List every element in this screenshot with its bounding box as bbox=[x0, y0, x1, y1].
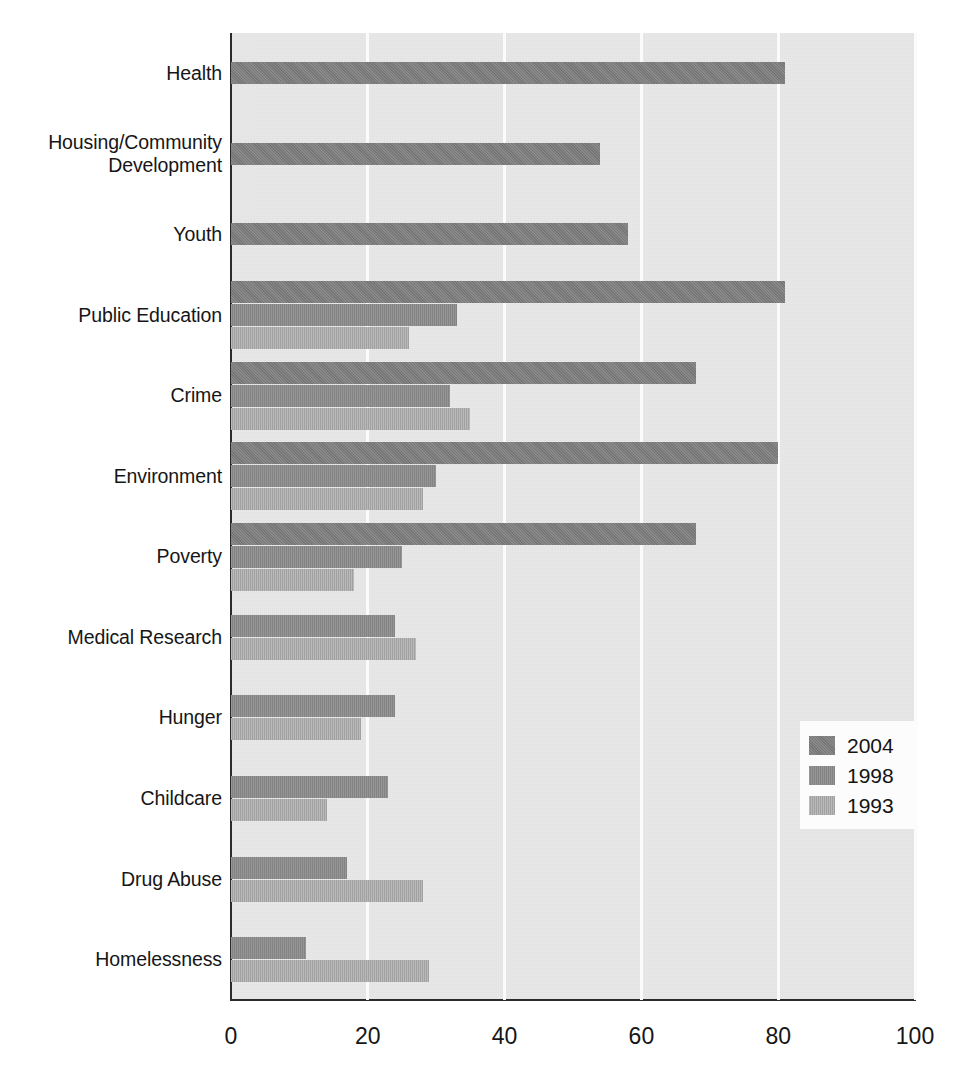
category-label-line: Poverty bbox=[9, 545, 222, 568]
category-label-line: Childcare bbox=[9, 787, 222, 810]
category-label-line: Housing/Community bbox=[9, 131, 222, 154]
bar-homelessness-1998 bbox=[231, 937, 306, 959]
bar-housing-2004 bbox=[231, 143, 600, 165]
x-axis-line bbox=[230, 999, 916, 1001]
x-tick-label-60: 60 bbox=[629, 1022, 655, 1050]
bar-public-education-1998 bbox=[231, 304, 457, 326]
bar-hunger-1998 bbox=[231, 695, 395, 717]
x-tick-label-0: 0 bbox=[225, 1022, 238, 1050]
category-label-line: Development bbox=[9, 154, 222, 177]
category-label-line: Environment bbox=[9, 465, 222, 488]
bar-medical-research-1993 bbox=[231, 638, 416, 660]
bar-drug-abuse-1993 bbox=[231, 880, 423, 902]
category-label-line: Youth bbox=[9, 223, 222, 246]
category-label-line: Public Education bbox=[9, 304, 222, 327]
bar-group-youth bbox=[231, 223, 915, 245]
x-tick-label-100: 100 bbox=[896, 1022, 934, 1050]
category-label-public-education: Public Education bbox=[9, 304, 231, 327]
category-label-crime: Crime bbox=[9, 384, 231, 407]
bar-hunger-1993 bbox=[231, 718, 361, 740]
bar-poverty-2004 bbox=[231, 523, 696, 545]
legend-label-1998: 1998 bbox=[847, 765, 894, 786]
bar-group-public-education bbox=[231, 281, 915, 349]
bar-medical-research-1998 bbox=[231, 615, 395, 637]
bar-public-education-2004 bbox=[231, 281, 785, 303]
category-label-line: Drug Abuse bbox=[9, 868, 222, 891]
bar-poverty-1998 bbox=[231, 546, 402, 568]
legend-swatch-1993 bbox=[809, 796, 835, 815]
category-label-childcare: Childcare bbox=[9, 787, 231, 810]
gridline-20 bbox=[366, 33, 369, 1000]
bar-childcare-1993 bbox=[231, 799, 327, 821]
legend-item-2004[interactable]: 2004 bbox=[809, 730, 908, 760]
category-label-drug-abuse: Drug Abuse bbox=[9, 868, 231, 891]
category-label-line: Medical Research bbox=[9, 626, 222, 649]
bar-youth-2004 bbox=[231, 223, 628, 245]
bar-homelessness-1993 bbox=[231, 960, 429, 982]
gridline-100 bbox=[914, 33, 917, 1000]
legend-item-1998[interactable]: 1998 bbox=[809, 760, 908, 790]
bar-environment-2004 bbox=[231, 442, 778, 464]
bar-group-poverty bbox=[231, 523, 915, 591]
bar-crime-1998 bbox=[231, 385, 450, 407]
bar-childcare-1998 bbox=[231, 776, 388, 798]
gridline-80 bbox=[777, 33, 780, 1000]
bar-crime-2004 bbox=[231, 362, 696, 384]
bar-environment-1998 bbox=[231, 465, 436, 487]
category-label-hunger: Hunger bbox=[9, 706, 231, 729]
bar-environment-1993 bbox=[231, 488, 423, 510]
bar-group-crime bbox=[231, 362, 915, 430]
category-label-poverty: Poverty bbox=[9, 545, 231, 568]
bar-group-drug-abuse bbox=[231, 857, 915, 902]
x-tick-label-80: 80 bbox=[765, 1022, 791, 1050]
bar-group-medical-research bbox=[231, 615, 915, 660]
bar-chart: HealthHousing/CommunityDevelopmentYouthP… bbox=[0, 0, 958, 1082]
bar-health-2004 bbox=[231, 62, 785, 84]
category-label-homelessness: Homelessness bbox=[9, 948, 231, 971]
legend-item-1993[interactable]: 1993 bbox=[809, 790, 908, 820]
bar-public-education-1993 bbox=[231, 327, 409, 349]
category-labels: HealthHousing/CommunityDevelopmentYouthP… bbox=[0, 33, 231, 1000]
category-label-line: Crime bbox=[9, 384, 222, 407]
bar-group-environment bbox=[231, 442, 915, 510]
category-label-line: Homelessness bbox=[9, 948, 222, 971]
bar-group-homelessness bbox=[231, 937, 915, 982]
category-label-housing: Housing/CommunityDevelopment bbox=[9, 131, 231, 177]
bar-drug-abuse-1998 bbox=[231, 857, 347, 879]
category-label-health: Health bbox=[9, 62, 231, 85]
bar-poverty-1993 bbox=[231, 569, 354, 591]
plot-area bbox=[231, 33, 915, 1000]
bar-crime-1993 bbox=[231, 408, 470, 430]
legend: 200419981993 bbox=[800, 721, 918, 829]
legend-label-2004: 2004 bbox=[847, 735, 894, 756]
bar-group-housing bbox=[231, 143, 915, 165]
bar-group-health bbox=[231, 62, 915, 84]
category-label-line: Health bbox=[9, 62, 222, 85]
x-tick-labels: 020406080100 bbox=[0, 1022, 958, 1062]
x-tick-label-20: 20 bbox=[355, 1022, 381, 1050]
legend-label-1993: 1993 bbox=[847, 795, 894, 816]
category-label-youth: Youth bbox=[9, 223, 231, 246]
category-label-line: Hunger bbox=[9, 706, 222, 729]
legend-swatch-1998 bbox=[809, 766, 835, 785]
gridline-60 bbox=[640, 33, 643, 1000]
gridline-40 bbox=[503, 33, 506, 1000]
legend-swatch-2004 bbox=[809, 736, 835, 755]
category-label-medical-research: Medical Research bbox=[9, 626, 231, 649]
x-tick-label-40: 40 bbox=[492, 1022, 518, 1050]
category-label-environment: Environment bbox=[9, 465, 231, 488]
